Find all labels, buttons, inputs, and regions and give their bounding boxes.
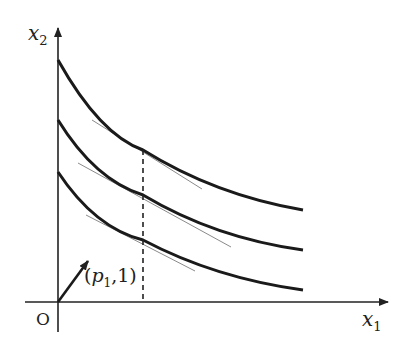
tangent-line-middle: [78, 163, 231, 247]
x-axis-label: x1: [362, 307, 382, 334]
origin-label: O: [36, 309, 50, 329]
indifference-curve-upper: [58, 60, 303, 210]
tangent-line-lower: [86, 215, 195, 271]
vector-label: (p1,1): [84, 264, 137, 290]
y-axis-label: x2: [28, 21, 48, 48]
diagram-canvas: x2 x1 O (p1,1): [0, 0, 413, 353]
indifference-curve-middle: [58, 120, 303, 250]
